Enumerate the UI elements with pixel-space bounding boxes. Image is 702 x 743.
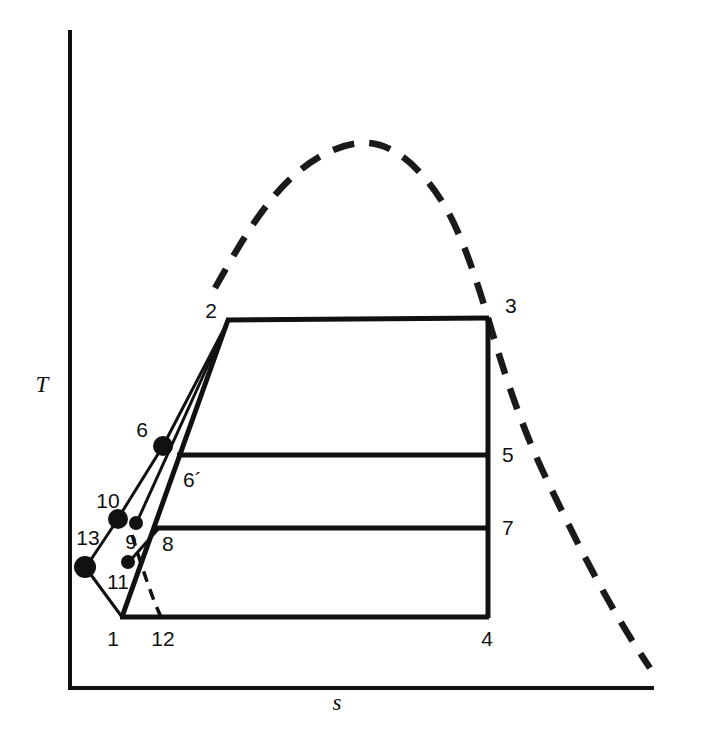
ts-diagram-figure: 1 2 3 4 5 6 6´ 7 8 9 10 11 12 13 T s [0,0,702,743]
label-point-9: 9 [125,530,137,553]
label-point-11: 11 [107,570,129,593]
path-10-6-2 [117,321,228,520]
label-point-5: 5 [502,443,514,466]
cycle-line-2-3 [226,318,489,320]
saturation-dome-curve [215,143,650,668]
label-point-6-prime: 6´ [183,468,202,491]
state-dot-10 [108,509,128,529]
state-dot-13 [74,556,96,578]
label-point-1: 1 [107,627,119,650]
axis-group [70,32,652,688]
label-point-8: 8 [162,532,174,555]
cycle-line-1-2 [122,320,228,617]
label-point-3: 3 [505,294,517,317]
state-dot-9 [129,516,143,530]
state-dot-6 [153,436,173,456]
extraction-levels-group [152,455,489,528]
label-point-2: 2 [205,299,217,322]
ts-diagram-canvas: 1 2 3 4 5 6 6´ 7 8 9 10 11 12 13 T s [0,0,702,743]
label-point-4: 4 [481,627,493,650]
y-axis-label: T [36,372,51,397]
path-9-2 [136,321,228,524]
x-axis-label: s [333,690,342,715]
label-point-12: 12 [151,627,174,650]
label-point-7: 7 [502,516,514,539]
state-dot-11 [121,555,135,569]
label-point-10: 10 [96,489,119,512]
label-point-6: 6 [136,418,148,441]
state-labels-group: 1 2 3 4 5 6 6´ 7 8 9 10 11 12 13 [76,294,516,650]
label-point-13: 13 [76,526,99,549]
cycle-envelope-group [120,318,489,618]
saturation-dome-group [215,143,650,668]
